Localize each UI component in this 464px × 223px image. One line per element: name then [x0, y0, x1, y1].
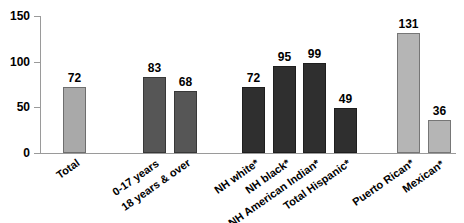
bar-value-label: 131: [391, 18, 426, 30]
x-axis-label: Total: [54, 157, 82, 181]
y-tick-label: 150: [0, 10, 30, 22]
bar: [428, 120, 451, 153]
bar-value-label: 49: [328, 93, 363, 105]
bar: [397, 33, 420, 153]
bar: [334, 108, 357, 153]
bar-value-label: 36: [422, 105, 457, 117]
bar: [303, 63, 326, 153]
bar: [174, 91, 197, 153]
bar: [63, 87, 86, 153]
y-tick-label: 100: [0, 56, 30, 68]
plot-area: 72836872959949131366281: [41, 16, 456, 153]
bar: [143, 77, 166, 153]
bar-value-label: 83: [137, 62, 172, 74]
bar: [273, 66, 296, 153]
y-tick-label: 50: [0, 101, 30, 113]
x-axis-labels: Total0-17 years18 years & overNH white*N…: [0, 153, 464, 223]
y-tick-mark: [34, 107, 40, 108]
y-tick-mark: [34, 16, 40, 17]
bar-value-label: 72: [236, 72, 271, 84]
y-tick-mark: [34, 62, 40, 63]
bar-value-label: 99: [297, 48, 332, 60]
bar-chart: 050100150 72836872959949131366281 Total0…: [0, 0, 464, 223]
bar: [242, 87, 265, 153]
bar-value-label: 72: [57, 72, 92, 84]
bar-value-label: 68: [168, 76, 203, 88]
